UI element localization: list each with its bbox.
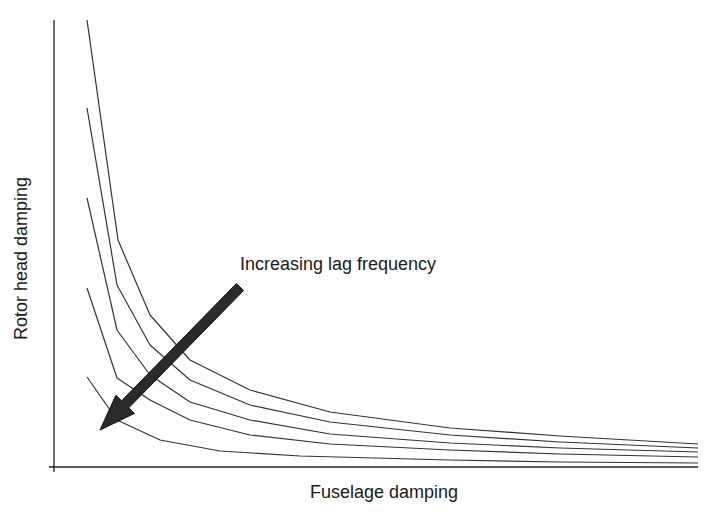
axes <box>49 20 698 472</box>
arrow-shape <box>100 284 244 431</box>
lag-frequency-arrow <box>100 284 244 431</box>
curve-1 <box>87 20 698 444</box>
curve-4 <box>87 288 698 457</box>
y-axis-label: Rotor head damping <box>11 177 32 340</box>
x-axis-label: Fuselage damping <box>310 482 458 503</box>
curve-2 <box>87 108 698 448</box>
annotation-label: Increasing lag frequency <box>240 254 436 275</box>
curves <box>87 20 698 463</box>
